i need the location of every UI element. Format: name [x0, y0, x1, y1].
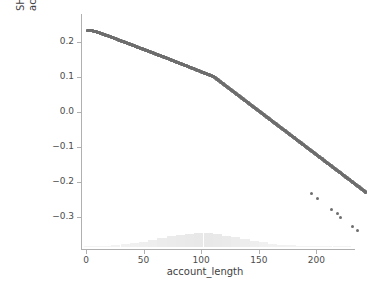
y-tick-mark [77, 112, 81, 113]
rug-bin [176, 235, 185, 247]
rug-bin [342, 246, 351, 247]
y-tick-mark [77, 42, 81, 43]
scatter-point-outlier [339, 216, 342, 219]
rug-bin [333, 246, 342, 247]
rug-bin [148, 240, 157, 247]
scatter-point-outlier [310, 192, 313, 195]
rug-bin [314, 246, 323, 247]
rug-bin [194, 233, 203, 247]
scatter-point-outlier [336, 212, 339, 215]
x-tick-label: 150 [244, 255, 274, 265]
rug-bin [222, 236, 231, 247]
scatter-point-outlier [356, 229, 359, 232]
x-axis-spine [81, 249, 355, 250]
rug-bin [185, 234, 194, 247]
rug-bin [121, 244, 130, 247]
y-axis-spine [81, 14, 82, 249]
rug-bin [102, 246, 111, 247]
rug-bin [286, 245, 295, 247]
y-tick-mark [77, 217, 81, 218]
rug-bin [259, 242, 268, 247]
rug-bin [204, 233, 213, 247]
rug-bin [305, 246, 314, 247]
scatter-point-outlier [351, 225, 354, 228]
shap-dependence-plot: 0.20.10.0−0.1−0.2−0.3 050100150200 SHAP … [0, 0, 375, 297]
rug-bin [111, 245, 120, 247]
scatter-point-outlier [316, 197, 319, 200]
scatter-point-outlier [330, 208, 333, 211]
x-axis-title: account_length [155, 266, 255, 277]
rug-bin [231, 237, 240, 247]
x-tick-mark [316, 250, 317, 254]
rug-bin [296, 246, 305, 247]
rug-bin [93, 246, 102, 247]
x-tick-label: 100 [186, 255, 216, 265]
rug-bin [250, 241, 259, 247]
rug-bin [157, 238, 166, 247]
x-tick-mark [86, 250, 87, 254]
x-tick-mark [259, 250, 260, 254]
x-tick-mark [144, 250, 145, 254]
rug-bin [139, 242, 148, 247]
x-tick-label: 200 [301, 255, 331, 265]
rug-bin [213, 234, 222, 247]
rug-bin [323, 246, 332, 247]
y-tick-mark [77, 77, 81, 78]
y-tick-mark [77, 147, 81, 148]
rug-bin [240, 239, 249, 247]
rug-bin [84, 246, 93, 247]
y-axis-title-line2: account_length [27, 0, 38, 11]
x-tick-mark [201, 250, 202, 254]
y-axis-title: SHAP value for account_length [0, 0, 60, 249]
x-tick-label: 50 [129, 255, 159, 265]
y-tick-mark [77, 182, 81, 183]
scatter-point [364, 191, 367, 194]
rug-bin [130, 243, 139, 247]
rug-bin [277, 245, 286, 248]
y-axis-title-line1: SHAP value for [15, 0, 26, 11]
rug-bin [167, 236, 176, 247]
rug-bin [268, 244, 277, 247]
x-tick-label: 0 [71, 255, 101, 265]
